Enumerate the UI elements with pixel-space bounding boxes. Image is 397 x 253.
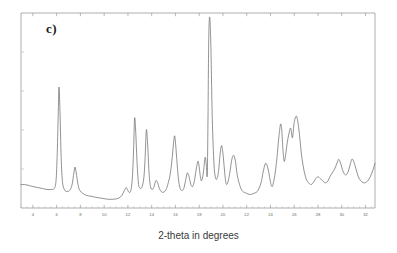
x-tick-label: 18 bbox=[197, 212, 202, 217]
x-tick-label: 20 bbox=[221, 212, 226, 217]
x-tick-label: 22 bbox=[244, 212, 249, 217]
x-tick-label: 8 bbox=[79, 212, 82, 217]
x-tick-label: 10 bbox=[102, 212, 107, 217]
x-tick-label: 24 bbox=[268, 212, 273, 217]
plot-frame bbox=[21, 13, 375, 208]
x-tick-label: 6 bbox=[55, 212, 58, 217]
panel-label: c) bbox=[46, 22, 57, 35]
intensity-curve bbox=[21, 17, 375, 199]
x-tick-label: 14 bbox=[149, 212, 154, 217]
x-axis-tick-labels: 468101214161820222426283032 bbox=[32, 212, 369, 217]
x-tick-label: 32 bbox=[363, 212, 368, 217]
x-tick-label: 28 bbox=[316, 212, 321, 217]
x-tick-label: 30 bbox=[339, 212, 344, 217]
x-axis-ticks bbox=[21, 13, 371, 208]
x-tick-label: 4 bbox=[32, 212, 35, 217]
x-tick-label: 26 bbox=[292, 212, 297, 217]
x-axis-title: 2-theta in degrees bbox=[0, 230, 397, 241]
x-tick-label: 16 bbox=[173, 212, 178, 217]
xrd-figure: 468101214161820222426283032 c) 2-theta i… bbox=[0, 0, 397, 253]
diffraction-trace bbox=[21, 17, 375, 199]
xrd-plot-svg: 468101214161820222426283032 bbox=[0, 0, 397, 253]
x-tick-label: 12 bbox=[126, 212, 131, 217]
